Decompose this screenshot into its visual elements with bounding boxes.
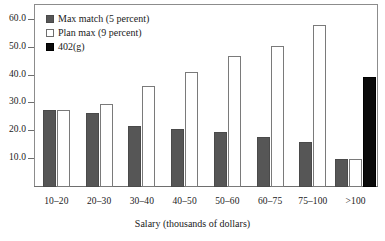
bar-group [214,5,241,187]
bar [128,126,141,187]
bar [142,86,155,187]
legend-item-label: 402(g) [58,41,85,52]
bar [363,77,376,187]
legend-item: Max match (5 percent) [46,12,149,25]
x-axis-tick-label: >100 [334,196,377,207]
bar [313,25,326,187]
y-axis-tick [28,19,34,20]
bar-chart-figure: 10.020.030.040.050.060.0 10–2020–3030–40… [0,0,385,241]
white-open-square-icon [46,29,54,37]
bar [43,110,56,187]
bar [86,113,99,187]
x-axis-tick-label: 30–40 [121,196,164,207]
bar-group [299,5,326,187]
y-axis-tick-label: 20.0 [0,125,26,135]
bar [335,159,348,187]
legend-item: 402(g) [46,40,149,53]
bar [171,129,184,187]
bar [214,132,227,187]
black-filled-square-icon [46,43,54,51]
gray-filled-square-icon [46,15,54,23]
y-axis-tick [28,75,34,76]
legend-item: Plan max (9 percent) [46,26,149,39]
legend-item-label: Max match (5 percent) [58,13,149,24]
bar-group [335,5,376,187]
bar [57,110,70,187]
bar-group [257,5,284,187]
bar-group [171,5,198,187]
bar [100,104,113,187]
bar [299,142,312,187]
y-axis-tick [28,158,34,159]
bar [257,137,270,187]
y-axis-tick [28,102,34,103]
x-axis-tick-label: 40–50 [163,196,206,207]
x-axis-tick-label: 75–100 [292,196,335,207]
y-axis-tick [28,130,34,131]
y-axis-tick-label: 50.0 [0,42,26,52]
y-axis-tick-label: 60.0 [0,14,26,24]
y-axis-tick [28,47,34,48]
x-axis-tick-label: 60–75 [249,196,292,207]
chart-legend: Max match (5 percent)Plan max (9 percent… [46,12,149,53]
x-axis-tick-label: 10–20 [35,196,78,207]
x-axis-tick-label: 50–60 [206,196,249,207]
legend-item-label: Plan max (9 percent) [58,27,142,38]
y-axis-tick-label: 40.0 [0,70,26,80]
bar [185,72,198,187]
bar [228,56,241,187]
x-axis-title: Salary (thousands of dollars) [0,218,385,230]
bar [271,46,284,187]
y-axis-tick-label: 30.0 [0,97,26,107]
x-axis-tick-label: 20–30 [78,196,121,207]
y-axis-tick-label: 10.0 [0,153,26,163]
bar [349,159,362,187]
